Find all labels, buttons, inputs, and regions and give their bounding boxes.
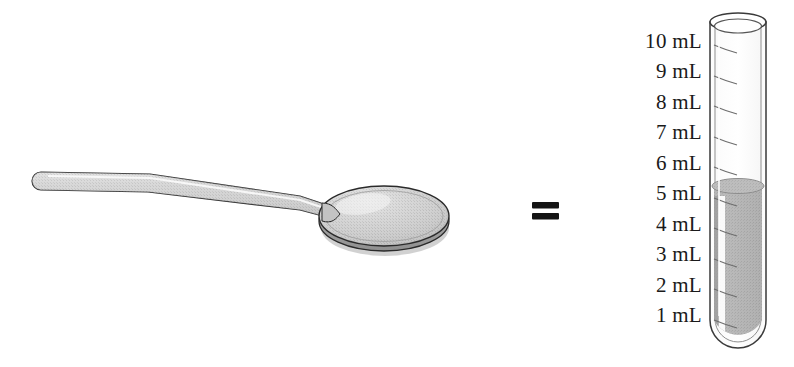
test-tube-rim-inner [715, 19, 762, 33]
spoon [32, 172, 449, 256]
graduation-label-6ml: 6 mL [656, 151, 702, 175]
graduation-label-1ml: 1 mL [656, 303, 702, 327]
test-tube [710, 13, 766, 356]
equals-bar-top [532, 202, 559, 209]
graduation-label-10ml: 10 mL [645, 29, 702, 53]
graduation-label-8ml: 8 mL [656, 90, 702, 114]
equals-bar-bottom [532, 213, 559, 220]
liquid-surface-texture [713, 179, 763, 193]
graduation-labels: 10 mL 9 mL 8 mL 7 mL 6 mL 5 mL 4 mL 3 mL… [645, 29, 702, 327]
equals-sign-label: = [545, 210, 546, 211]
graduation-label-7ml: 7 mL [656, 120, 702, 144]
equals-sign [532, 202, 559, 220]
graduation-label-5ml: 5 mL [656, 181, 702, 205]
teaspoon-equals-five-milliliters-illustration: = [0, 0, 794, 367]
spoon-handle-texture [32, 172, 330, 218]
graduation-label-2ml: 2 mL [656, 273, 702, 297]
graduation-label-3ml: 3 mL [656, 242, 702, 266]
graduation-label-9ml: 9 mL [656, 59, 702, 83]
graduation-label-4ml: 4 mL [656, 212, 702, 236]
figure-canvas: = [0, 0, 794, 367]
